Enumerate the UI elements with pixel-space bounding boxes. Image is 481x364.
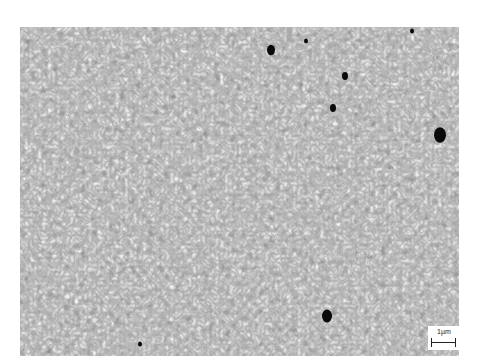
pore — [267, 45, 275, 55]
pore — [410, 28, 414, 33]
sem-micrograph — [20, 27, 459, 356]
scale-bar-label: 1µm — [428, 327, 460, 336]
scale-bar: 1µm — [428, 326, 460, 350]
pore — [342, 72, 348, 80]
pore — [434, 127, 446, 143]
pore — [330, 104, 336, 112]
pore — [322, 310, 332, 323]
scale-bar-tick-right — [455, 338, 456, 347]
grain-texture — [20, 27, 459, 356]
pore — [138, 341, 142, 346]
scale-bar-line — [431, 342, 456, 343]
pore — [304, 38, 308, 43]
